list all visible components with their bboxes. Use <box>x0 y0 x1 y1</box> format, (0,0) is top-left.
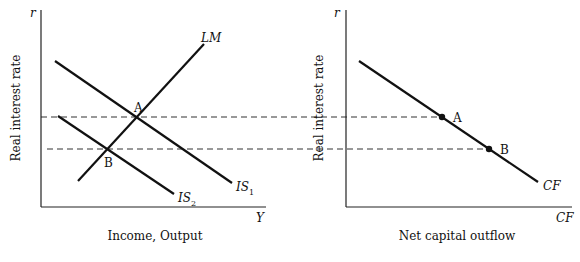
left-x-title: Income, Output <box>107 229 202 243</box>
is1-curve <box>55 61 232 183</box>
right-point-b-dot <box>486 146 492 152</box>
right-panel: r CF Real interest rate Net capital outf… <box>312 6 574 243</box>
left-x-symbol: Y <box>256 211 265 225</box>
right-point-a-dot <box>439 114 445 120</box>
right-point-b-label: B <box>500 143 509 157</box>
cf-label: CF <box>543 179 561 193</box>
right-y-title: Real interest rate <box>312 55 326 162</box>
islm-capital-flow-diagram: r Y Real interest rate Income, Output LM… <box>0 0 580 262</box>
right-point-a-label: A <box>452 111 462 125</box>
is2-label: IS2 <box>177 191 196 208</box>
right-x-title: Net capital outflow <box>399 229 516 243</box>
is1-label: IS1 <box>235 180 254 197</box>
left-point-b-label: B <box>104 156 113 170</box>
lm-label: LM <box>200 31 222 45</box>
right-x-symbol: CF <box>556 211 574 225</box>
right-y-symbol: r <box>334 6 341 20</box>
cf-curve <box>359 61 538 182</box>
left-point-a-label: A <box>133 101 143 115</box>
is2-curve <box>58 116 174 194</box>
left-y-symbol: r <box>30 6 37 20</box>
left-panel: r Y Real interest rate Income, Output LM… <box>9 6 266 243</box>
left-y-title: Real interest rate <box>9 55 23 162</box>
